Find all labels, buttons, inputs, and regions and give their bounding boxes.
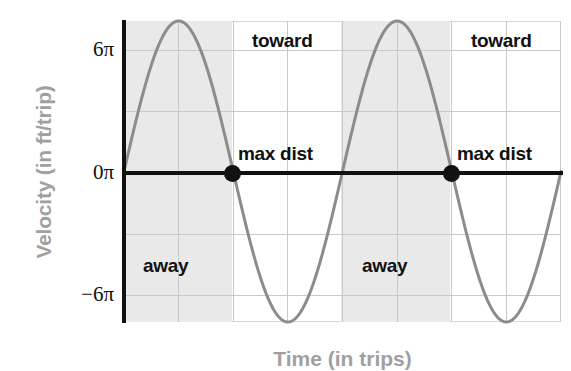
y-tick-label-0pi: 0π bbox=[44, 162, 114, 183]
max-dist-marker-1 bbox=[224, 165, 241, 182]
annotation-away-2: away bbox=[362, 255, 407, 277]
zero-velocity-axis-line bbox=[122, 171, 563, 175]
annotation-max-dist-2: max dist bbox=[457, 143, 532, 165]
x-axis-title: Time (in trips) bbox=[124, 347, 561, 371]
y-tick-label-6pi: 6π bbox=[44, 39, 114, 60]
y-tick-label-neg6pi: −6π bbox=[44, 284, 114, 305]
annotation-toward-2: toward bbox=[471, 30, 531, 52]
annotation-max-dist-1: max dist bbox=[238, 143, 313, 165]
annotation-away-1: away bbox=[143, 255, 188, 277]
max-dist-marker-2 bbox=[443, 165, 460, 182]
annotation-toward-1: toward bbox=[252, 30, 312, 52]
